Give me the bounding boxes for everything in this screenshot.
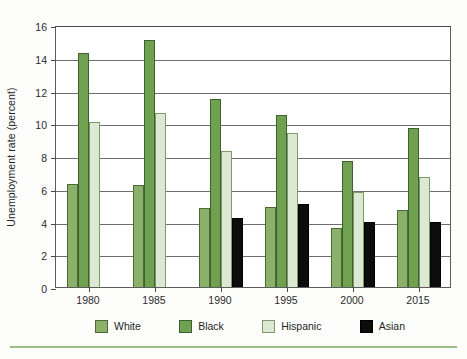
bar-hispanic-2015 [419,177,430,287]
bar-hispanic-1985 [155,113,166,287]
bar-asian-1995 [298,204,309,288]
y-tick-label: 8 [41,152,47,164]
bar-group [386,27,452,287]
x-tick-mark [89,287,90,292]
y-tick-label: 4 [41,218,47,230]
bar-white-1980 [67,184,78,287]
bar-asian-2015 [430,222,441,288]
x-tick-mark [353,287,354,292]
x-tick-label-2015: 2015 [406,294,429,306]
y-tick-mark [51,289,56,290]
bar-white-2015 [397,210,408,287]
bar-white-1995 [265,207,276,287]
bar-asian-2000 [364,222,375,288]
bar-black-1980 [78,53,89,287]
bar-white-2000 [331,228,342,287]
unemployment-rate-bar-chart: Unemployment rate (percent) 161412108642… [0,0,467,359]
hispanic-swatch [262,320,275,333]
x-tick-label-1980: 1980 [76,294,99,306]
plot-area: 1614121086420 [55,26,451,288]
y-axis-title: Unemployment rate (percent) [4,26,18,288]
x-tick-label-2000: 2000 [340,294,363,306]
bar-group [254,27,320,287]
bar-hispanic-1995 [287,133,298,287]
bar-hispanic-2000 [353,192,364,287]
x-tick-mark [419,287,420,292]
bar-group [320,27,386,287]
y-tick-label: 10 [35,119,47,131]
y-tick-label: 16 [35,21,47,33]
bar-hispanic-1990 [221,151,232,287]
bar-asian-1990 [232,218,243,287]
legend-item-white[interactable]: White [95,320,141,333]
bar-black-2000 [342,161,353,287]
y-tick-label: 14 [35,54,47,66]
asian-swatch [360,320,373,333]
y-tick-label: 0 [41,283,47,295]
bar-hispanic-1980 [89,122,100,287]
decorative-rule [10,346,457,348]
y-tick-label: 12 [35,87,47,99]
bar-group [122,27,188,287]
x-tick-label-1985: 1985 [142,294,165,306]
white-swatch [95,320,108,333]
legend-label: Asian [379,320,405,332]
legend-label: White [114,320,141,332]
bar-group [56,27,122,287]
legend-item-asian[interactable]: Asian [360,320,405,333]
y-tick-label: 6 [41,185,47,197]
x-tick-label-1990: 1990 [208,294,231,306]
bar-black-1985 [144,40,155,287]
x-tick-mark [287,287,288,292]
black-swatch [179,320,192,333]
legend-item-black[interactable]: Black [179,320,224,333]
bar-black-1995 [276,115,287,287]
x-tick-label-1995: 1995 [274,294,297,306]
bar-black-2015 [408,128,419,287]
bar-group [188,27,254,287]
legend-item-hispanic[interactable]: Hispanic [262,320,321,333]
x-tick-mark [221,287,222,292]
bar-black-1990 [210,99,221,287]
x-tick-mark [155,287,156,292]
y-tick-label: 2 [41,250,47,262]
bar-white-1990 [199,208,210,287]
legend-label: Black [198,320,224,332]
chart-legend: WhiteBlackHispanicAsian [95,316,405,336]
legend-label: Hispanic [281,320,321,332]
bar-white-1985 [133,185,144,287]
